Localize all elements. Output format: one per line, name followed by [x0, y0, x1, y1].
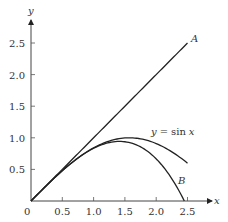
label-B: B: [177, 175, 185, 186]
x-tick-label: 2.0: [148, 206, 164, 217]
y-tick-label: 2.0: [9, 70, 25, 81]
y-tick-label: 0.5: [9, 164, 25, 175]
curves: [31, 43, 188, 201]
x-ticks: 0.51.01.52.02.5: [54, 197, 195, 217]
curve-y-sin-x: [31, 138, 188, 201]
y-axis-label: y: [27, 5, 34, 16]
x-tick-label: 2.5: [180, 206, 196, 217]
x-tick-label: 1.0: [86, 206, 102, 217]
y-tick-label: 1.0: [9, 133, 25, 144]
y-tick-label: 1.5: [9, 101, 25, 112]
origin-label: 0: [24, 206, 30, 217]
x-tick-label: 1.5: [117, 206, 133, 217]
plot-area: 0.51.01.52.02.5 0.51.01.52.02.5 x y 0 A …: [0, 0, 228, 222]
label-sin: y=sinx: [150, 126, 195, 137]
label-A: A: [190, 33, 198, 44]
x-tick-label: 0.5: [54, 206, 70, 217]
y-tick-label: 2.5: [9, 38, 25, 49]
curve-b: [31, 141, 184, 201]
x-axis-label: x: [214, 195, 220, 206]
